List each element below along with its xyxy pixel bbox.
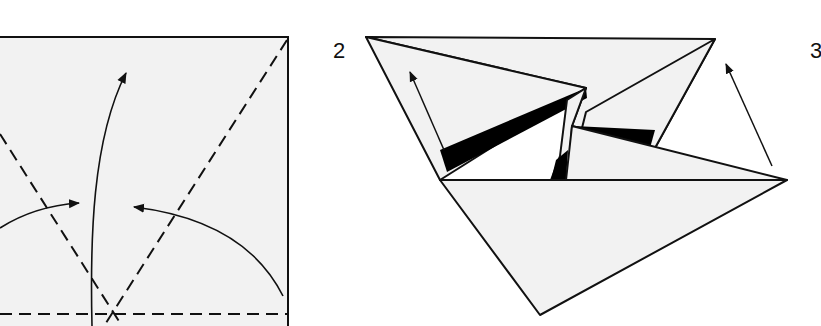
front-triangle	[440, 180, 787, 315]
fold-arrow-right	[726, 64, 772, 166]
origami-diagram: 2 3	[0, 0, 821, 326]
step-3-number: 3	[810, 38, 821, 63]
step-2-number: 2	[333, 38, 345, 63]
step-2-figure	[366, 37, 787, 315]
step-1-square	[0, 37, 288, 326]
